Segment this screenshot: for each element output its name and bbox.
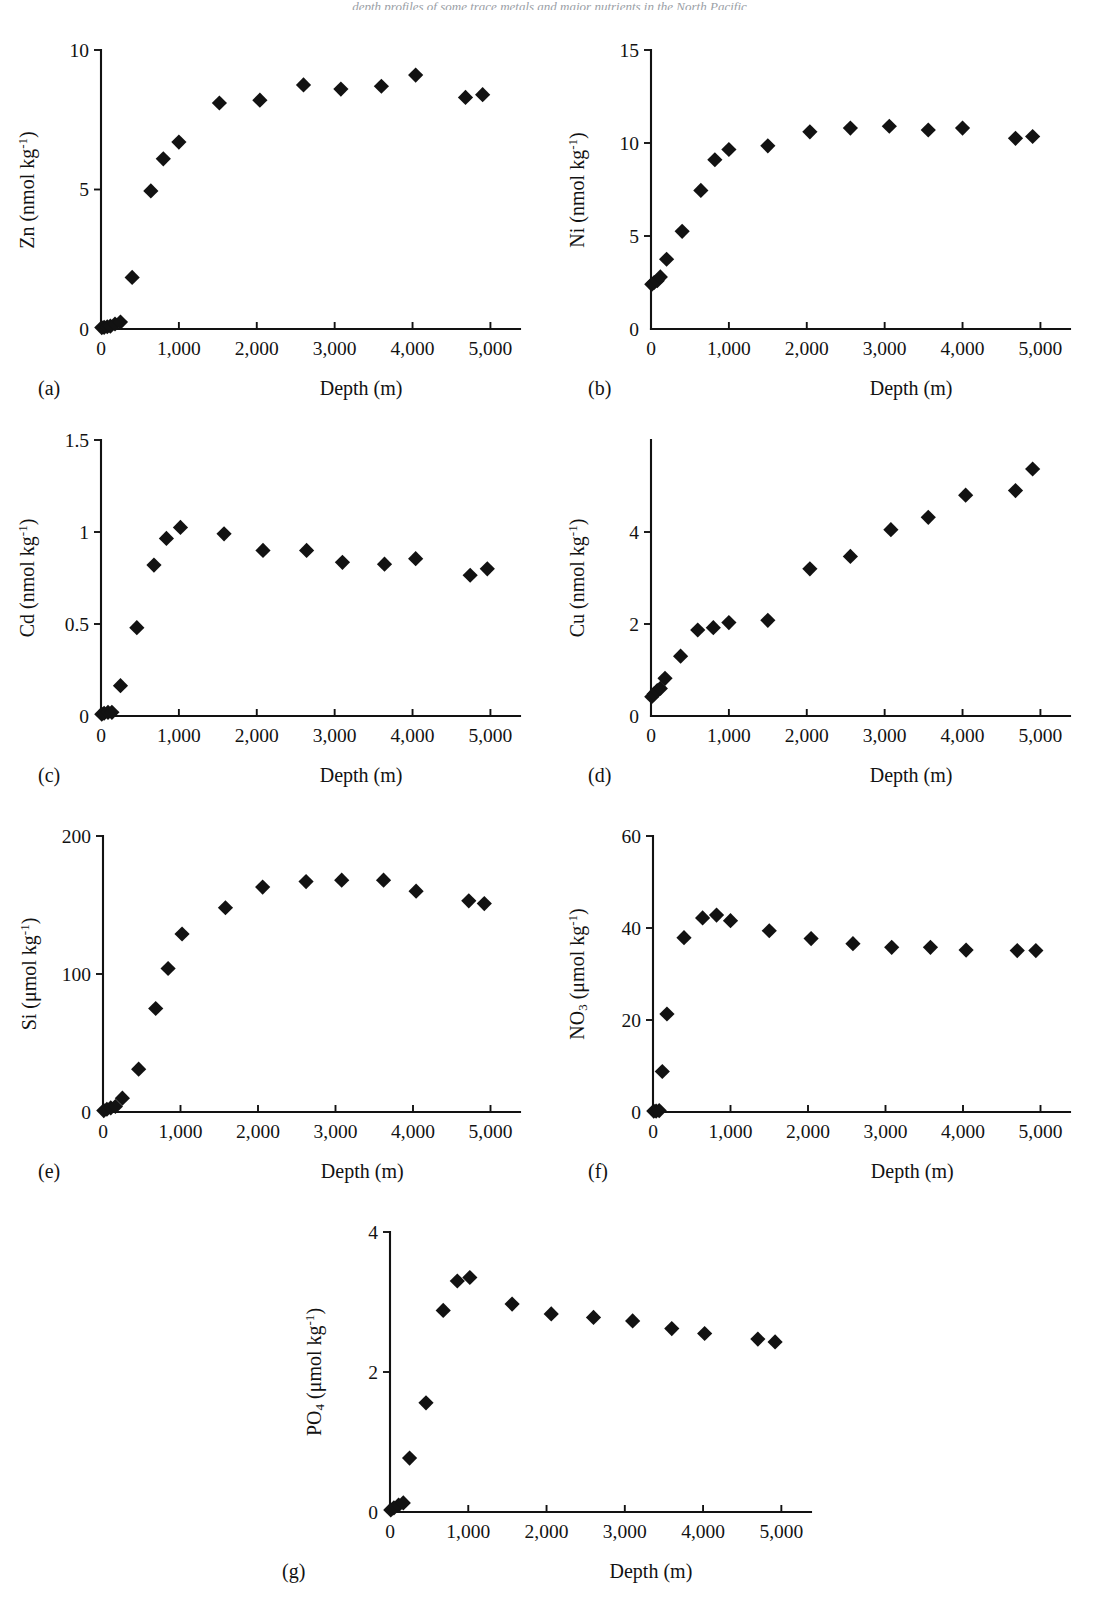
plot-area: 010020001,0002,0003,0004,0005,000 bbox=[0, 794, 549, 1190]
y-axis-label-exponent: -1 bbox=[17, 924, 32, 935]
data-point bbox=[706, 620, 721, 635]
y-tick-label: 200 bbox=[62, 826, 91, 847]
panel-letter: (b) bbox=[588, 377, 611, 400]
chart-panel-d: 02401,0002,0003,0004,0005,000Cu (nmol kg… bbox=[550, 404, 1099, 794]
x-tick-label: 5,000 bbox=[468, 338, 512, 359]
data-point bbox=[760, 138, 775, 153]
data-series bbox=[644, 461, 1040, 704]
panel-letter: (d) bbox=[588, 764, 611, 787]
data-point bbox=[955, 121, 970, 136]
y-axis-label-species: Zn bbox=[16, 226, 38, 248]
y-axis-label-units: μmol kg bbox=[18, 935, 40, 1002]
x-axis-label: Depth (m) bbox=[272, 1160, 452, 1183]
y-axis-label: Cd (nmol kg-1) bbox=[15, 519, 39, 638]
y-axis-label-exponent: -1 bbox=[15, 525, 30, 536]
data-series bbox=[646, 908, 1043, 1119]
x-tick-label: 0 bbox=[648, 1121, 658, 1142]
data-point bbox=[695, 910, 710, 925]
x-axis-label: Depth (m) bbox=[821, 764, 1001, 787]
x-tick-label: 2,000 bbox=[785, 725, 829, 746]
y-tick-label: 5 bbox=[79, 179, 89, 200]
chart-panel-g: 02401,0002,0003,0004,0005,000PO4 (μmol k… bbox=[250, 1190, 850, 1600]
data-point bbox=[418, 1395, 433, 1410]
x-tick-label: 4,000 bbox=[391, 338, 435, 359]
y-axis-label-species: PO bbox=[303, 1410, 325, 1436]
data-point bbox=[113, 678, 128, 693]
x-tick-label: 0 bbox=[96, 725, 106, 746]
y-tick-label: 0 bbox=[79, 319, 89, 340]
x-axis-label: Depth (m) bbox=[821, 377, 1001, 400]
x-tick-label: 1,000 bbox=[446, 1521, 490, 1542]
data-point bbox=[690, 622, 705, 637]
x-tick-label: 1,000 bbox=[157, 338, 201, 359]
x-tick-label: 0 bbox=[385, 1521, 395, 1542]
plot-area: 00.511.501,0002,0003,0004,0005,000 bbox=[0, 404, 549, 794]
y-tick-label: 0 bbox=[81, 1102, 91, 1123]
chart-panel-c: 00.511.501,0002,0003,0004,0005,000Cd (nm… bbox=[0, 404, 549, 794]
x-tick-label: 1,000 bbox=[707, 338, 751, 359]
data-point bbox=[125, 270, 140, 285]
y-axis-label-subscript: 3 bbox=[575, 1004, 590, 1011]
data-point bbox=[675, 224, 690, 239]
data-point bbox=[882, 119, 897, 134]
panel-letter: (g) bbox=[282, 1560, 305, 1583]
data-point bbox=[843, 549, 858, 564]
x-tick-label: 5,000 bbox=[1019, 1121, 1063, 1142]
data-point bbox=[1028, 943, 1043, 958]
y-axis-label: Cu (nmol kg-1) bbox=[565, 519, 589, 638]
data-point bbox=[171, 134, 186, 149]
x-tick-label: 4,000 bbox=[391, 1121, 435, 1142]
x-axis-label: Depth (m) bbox=[271, 764, 451, 787]
x-axis-label: Depth (m) bbox=[561, 1560, 741, 1583]
figure-depth-profiles: depth profiles of some trace metals and … bbox=[0, 0, 1099, 1608]
data-point bbox=[334, 873, 349, 888]
x-tick-label: 2,000 bbox=[236, 1121, 280, 1142]
data-point bbox=[802, 124, 817, 139]
x-axis-label: Depth (m) bbox=[271, 377, 451, 400]
y-axis-label-exponent: -1 bbox=[15, 137, 30, 148]
data-point bbox=[884, 940, 899, 955]
data-point bbox=[335, 555, 350, 570]
x-tick-label: 3,000 bbox=[863, 725, 907, 746]
x-tick-label: 5,000 bbox=[469, 1121, 513, 1142]
y-tick-label: 60 bbox=[622, 826, 642, 847]
y-tick-label: 0 bbox=[629, 319, 639, 340]
x-tick-label: 4,000 bbox=[941, 1121, 985, 1142]
data-point bbox=[1010, 943, 1025, 958]
data-point bbox=[480, 561, 495, 576]
data-point bbox=[721, 615, 736, 630]
y-tick-label: 1.5 bbox=[65, 430, 89, 451]
data-point bbox=[216, 526, 231, 541]
x-tick-label: 3,000 bbox=[313, 338, 357, 359]
y-tick-label: 1 bbox=[79, 522, 89, 543]
data-point bbox=[143, 183, 158, 198]
y-tick-label: 10 bbox=[620, 133, 640, 154]
data-point bbox=[374, 79, 389, 94]
x-tick-label: 5,000 bbox=[1018, 338, 1062, 359]
y-axis-label-exponent: -1 bbox=[565, 915, 580, 926]
data-point bbox=[463, 568, 478, 583]
y-tick-label: 0 bbox=[629, 706, 639, 727]
data-point bbox=[376, 873, 391, 888]
plot-area: 051001,0002,0003,0004,0005,000 bbox=[0, 14, 549, 404]
x-tick-label: 2,000 bbox=[235, 725, 279, 746]
x-tick-label: 0 bbox=[646, 725, 656, 746]
data-point bbox=[921, 122, 936, 137]
x-tick-label: 2,000 bbox=[525, 1521, 569, 1542]
data-point bbox=[659, 252, 674, 267]
x-tick-label: 0 bbox=[646, 338, 656, 359]
data-point bbox=[255, 543, 270, 558]
data-point bbox=[586, 1310, 601, 1325]
plot-area: 05101501,0002,0003,0004,0005,000 bbox=[550, 14, 1099, 404]
x-tick-label: 5,000 bbox=[468, 725, 512, 746]
data-point bbox=[174, 926, 189, 941]
data-point bbox=[664, 1321, 679, 1336]
y-axis-label-units: μmol kg bbox=[303, 1325, 325, 1392]
y-axis-label-exponent: -1 bbox=[565, 525, 580, 536]
x-tick-label: 1,000 bbox=[707, 725, 751, 746]
data-point bbox=[298, 874, 313, 889]
data-point bbox=[461, 893, 476, 908]
data-point bbox=[883, 522, 898, 537]
y-tick-label: 100 bbox=[62, 964, 91, 985]
chart-panel-f: 020406001,0002,0003,0004,0005,000NO3 (μm… bbox=[550, 794, 1099, 1190]
